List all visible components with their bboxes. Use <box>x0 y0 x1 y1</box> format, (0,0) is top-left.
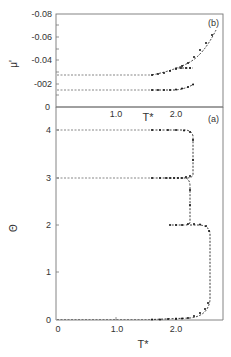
panel-a-xtick-2: 2.0 <box>170 324 183 334</box>
panel-a-ytick-1: 1 <box>46 267 51 277</box>
panel-a-ytick-3: 3 <box>46 173 51 183</box>
panel-a-ytick-4: 4 <box>46 125 51 135</box>
panel-b-tag: (b) <box>208 18 219 28</box>
panel-a-xlabel: T* <box>138 338 150 350</box>
panel-a-curves <box>152 130 210 320</box>
panel-b-ytick-3: -002 <box>34 79 52 89</box>
panel-b-curves <box>152 30 216 90</box>
figure: -0.08 -0.06 -0.04 -002 0 μ' 1.0 2.0 T* (… <box>0 0 231 357</box>
panel-a-ytick-2: 2 <box>46 220 51 230</box>
panel-a: 4 3 2 1 0 Θ 0 1.0 2.0 T* (a) <box>8 107 223 350</box>
panel-b-ytick-1: -0.06 <box>31 32 52 42</box>
panel-a-ytick-marks <box>56 130 176 320</box>
panel-b-ytick-2: -0.04 <box>31 55 52 65</box>
panel-b-xtick-1: 1.0 <box>110 109 123 119</box>
panel-b-ylabel: μ' <box>8 60 19 68</box>
panel-b-points <box>151 34 213 91</box>
panel-a-xtick-1: 1.0 <box>111 324 124 334</box>
panel-b-ytick-4: 0 <box>45 102 50 112</box>
panel-b-xlabel: T* <box>143 111 155 123</box>
panel-a-xtick-0: 0 <box>55 324 60 334</box>
panel-b: -0.08 -0.06 -0.04 -002 0 μ' 1.0 2.0 T* (… <box>8 9 223 123</box>
panel-a-ylabel: Θ <box>8 224 19 232</box>
panel-a-tag: (a) <box>208 114 219 124</box>
panel-a-dashed-lines <box>57 130 152 320</box>
panel-b-dashed-lines <box>57 75 152 90</box>
panel-a-ytick-0: 0 <box>46 315 51 325</box>
panel-b-ytick-0: -0.08 <box>31 9 52 19</box>
panel-b-xtick-2: 2.0 <box>170 109 183 119</box>
